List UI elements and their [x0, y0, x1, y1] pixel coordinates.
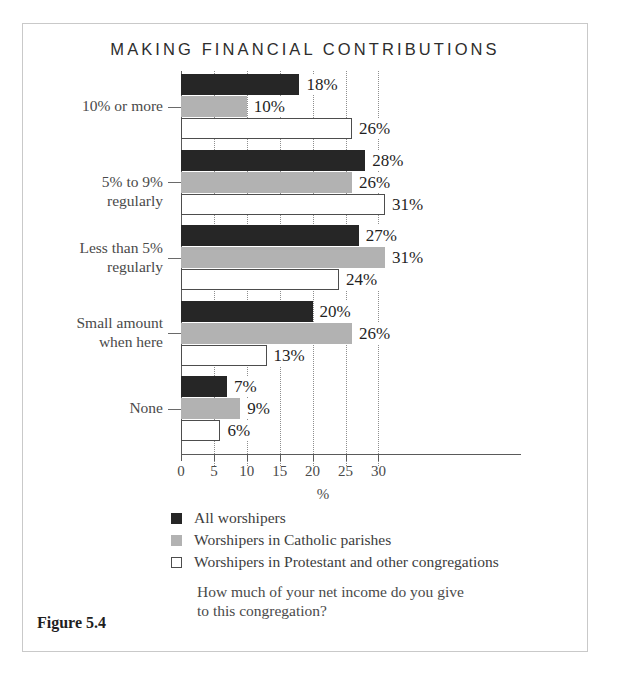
bar-value-label: 6% [223, 420, 252, 441]
bar-value-label: 10% [250, 96, 287, 117]
legend-item[interactable]: Worshipers in Protestant and other congr… [171, 552, 499, 572]
chart-legend: All worshipers Worshipers in Catholic pa… [171, 508, 499, 574]
x-axis-tick-label: 25 [338, 463, 353, 480]
bar [181, 74, 299, 95]
bar [181, 172, 352, 193]
bar [181, 420, 220, 441]
x-axis-title: % [181, 486, 465, 503]
bar-value-label: 7% [230, 376, 259, 397]
x-axis-tick [378, 454, 379, 461]
category-label: 5% to 9% regularly [45, 172, 163, 210]
bar [181, 225, 359, 246]
bar [181, 247, 385, 268]
bar [181, 194, 385, 215]
bar [181, 345, 267, 366]
bar-value-label: 9% [243, 398, 272, 419]
x-axis-tick [313, 454, 314, 461]
bar-value-label: 20% [316, 301, 353, 322]
bar [181, 269, 339, 290]
bar-value-label: 31% [388, 194, 425, 215]
legend-label: Worshipers in Protestant and other congr… [194, 553, 499, 571]
figure-number: Figure 5.4 [37, 614, 106, 632]
category-leader-line [168, 409, 181, 410]
category-axis: 10% or more5% to 9% regularlyLess than 5… [45, 71, 181, 466]
bar-value-label: 27% [362, 225, 399, 246]
bar [181, 301, 313, 322]
figure-frame: MAKING FINANCIAL CONTRIBUTIONS 10% or mo… [22, 23, 588, 652]
bar-value-label: 24% [342, 269, 379, 290]
category-label: 10% or more [82, 96, 163, 115]
bar-value-label: 13% [270, 345, 307, 366]
x-axis-tick [181, 454, 182, 461]
legend-item[interactable]: All worshipers [171, 508, 499, 528]
category-leader-line [168, 258, 181, 259]
plot-area: 05101520253018%10%26%28%26%31%27%31%24%2… [181, 71, 571, 466]
x-axis-tick-label: 0 [177, 463, 185, 480]
category-label: Less than 5% regularly [79, 238, 163, 276]
bar-value-label: 26% [355, 323, 392, 344]
bar [181, 376, 227, 397]
x-axis-tick-label: 30 [371, 463, 386, 480]
category-leader-line [168, 333, 181, 334]
x-axis-tick [214, 454, 215, 461]
x-axis-tick [280, 454, 281, 461]
bar-value-label: 26% [355, 172, 392, 193]
bar [181, 96, 247, 117]
category-label: None [129, 398, 163, 417]
bar [181, 323, 352, 344]
legend-swatch-icon [171, 513, 182, 524]
category-leader-line [168, 107, 181, 108]
chart-title: MAKING FINANCIAL CONTRIBUTIONS [23, 40, 587, 59]
bar-value-label: 18% [302, 74, 339, 95]
x-axis-tick [346, 454, 347, 461]
x-axis-tick-label: 15 [272, 463, 287, 480]
category-leader-line [168, 182, 181, 183]
bar-value-label: 26% [355, 118, 392, 139]
legend-swatch-icon [171, 535, 182, 546]
x-axis-tick-label: 5 [210, 463, 218, 480]
legend-label: All worshipers [194, 509, 286, 527]
x-axis-line [181, 454, 521, 455]
x-axis-tick-label: 10 [239, 463, 254, 480]
bar-value-label: 28% [368, 150, 405, 171]
legend-item[interactable]: Worshipers in Catholic parishes [171, 530, 499, 550]
bar [181, 150, 365, 171]
bar-value-label: 31% [388, 247, 425, 268]
legend-label: Worshipers in Catholic parishes [194, 531, 391, 549]
bar [181, 398, 240, 419]
x-axis-tick [247, 454, 248, 461]
figure-question: How much of your net income do you give … [197, 582, 464, 620]
x-axis-tick-label: 20 [305, 463, 320, 480]
category-label: Small amount when here [76, 313, 163, 351]
legend-swatch-icon [171, 557, 182, 568]
bar [181, 118, 352, 139]
